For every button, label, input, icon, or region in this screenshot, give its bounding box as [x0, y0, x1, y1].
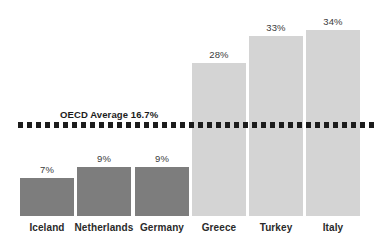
bar-germany[interactable] [135, 167, 189, 216]
bar-value-label-1: 9% [77, 153, 131, 164]
plot-area: 7% 9% 9% 28% 33% 34% OECD Average 16.7% … [0, 0, 381, 252]
category-label-italy: Italy [302, 222, 364, 233]
bar-iceland[interactable] [20, 178, 74, 216]
category-label-turkey: Turkey [245, 222, 307, 233]
oecd-average-line [18, 122, 378, 128]
bar-value-label-3: 28% [192, 49, 246, 60]
bar-value-label-2: 9% [135, 153, 189, 164]
oecd-average-label: OECD Average 16.7% [60, 109, 158, 120]
bar-value-label-5: 34% [306, 16, 360, 27]
bar-greece[interactable] [192, 63, 246, 216]
category-label-iceland: Iceland [16, 222, 78, 233]
category-label-greece: Greece [188, 222, 250, 233]
bar-value-label-0: 7% [20, 164, 74, 175]
category-label-germany: Germany [131, 222, 193, 233]
bar-netherlands[interactable] [77, 167, 131, 216]
category-label-netherlands: Netherlands [73, 222, 135, 233]
bar-chart: 7% 9% 9% 28% 33% 34% OECD Average 16.7% … [0, 0, 381, 252]
bar-value-label-4: 33% [249, 22, 303, 33]
